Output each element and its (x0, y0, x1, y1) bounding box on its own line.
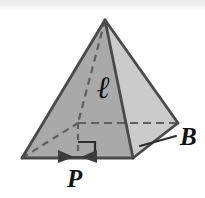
pyramid-figure: ℓ B P (0, 0, 205, 198)
base-perimeter-label: P (67, 166, 82, 191)
base-area-label: B (180, 124, 197, 149)
slant-height-label: ℓ (97, 72, 110, 103)
